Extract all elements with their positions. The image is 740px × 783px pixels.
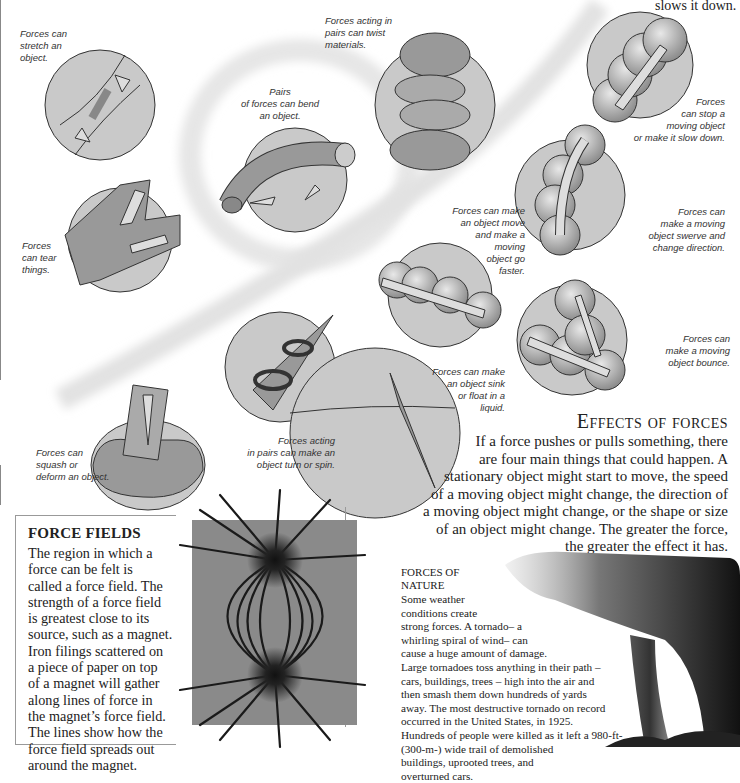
caption-sink: Forces can make an object sink or float … [420,366,505,414]
effects-title: Effects of forces [577,410,728,433]
bend-illustration [220,115,360,235]
caption-squash: Forces can squash or deform an object. [36,447,109,483]
caption-swerve: Forces can make a moving object swerve a… [610,206,725,254]
twist-illustration [380,20,490,170]
caption-stretch: Forces can stretch an object. [20,28,67,64]
caption-bounce: Forces can make a moving object bounce. [630,333,730,369]
tear-illustration [60,175,190,305]
iron-filings-magnet-image [180,485,370,747]
caption-stop: Forces can stop a moving object or make … [600,96,725,144]
caption-faster: Forces can make an object move and make … [420,205,525,277]
caption-tear: Forces can tear things. [22,240,56,276]
forces-of-nature-title: FORCES OF NATURE [401,566,459,592]
force-fields-body: The region in which a force can be felt … [28,545,203,773]
bounce-illustration [515,275,630,395]
caption-twist: Forces acting in pairs can twist materia… [325,15,392,51]
forces-of-nature-body: Some weather conditions create strong fo… [401,593,701,783]
force-fields-title: FORCE FIELDS [28,525,141,542]
caption-bend: Pairs of forces can bend an object. [230,86,330,122]
